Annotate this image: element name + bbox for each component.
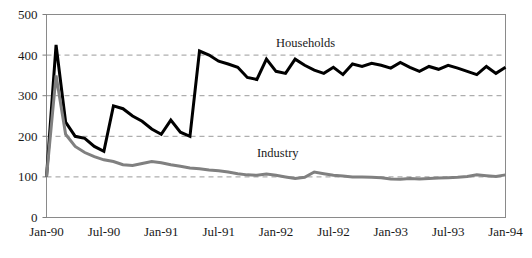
x-tick-label: Jul-91 <box>202 224 235 239</box>
y-tick-label: 500 <box>18 7 38 22</box>
x-tick-label: Jul-92 <box>317 224 350 239</box>
x-tick-label: Jan-90 <box>29 224 64 239</box>
series-annotations: HouseholdsIndustry <box>257 36 335 160</box>
x-tick-label: Jan-94 <box>488 224 523 239</box>
x-axis: Jan-90Jul-90Jan-91Jul-91Jan-92Jul-92Jan-… <box>29 224 523 239</box>
y-axis: 0100200300400500 <box>18 7 47 225</box>
x-tick-label: Jul-90 <box>88 224 121 239</box>
y-tick-label: 300 <box>18 88 38 103</box>
x-tick-label: Jan-92 <box>259 224 294 239</box>
annotation-industry: Industry <box>257 146 299 160</box>
y-tick-label: 400 <box>18 48 38 63</box>
y-tick-label: 200 <box>18 129 38 144</box>
y-tick-label: 100 <box>18 169 38 184</box>
chart-container: 0100200300400500 Jan-90Jul-90Jan-91Jul-9… <box>0 0 532 258</box>
annotation-households: Households <box>276 36 335 50</box>
x-tick-label: Jul-93 <box>432 224 465 239</box>
line-chart: 0100200300400500 Jan-90Jul-90Jan-91Jul-9… <box>0 0 532 258</box>
series-line-industry <box>47 75 506 179</box>
x-tick-label: Jan-91 <box>144 224 179 239</box>
x-tick-label: Jan-93 <box>373 224 408 239</box>
